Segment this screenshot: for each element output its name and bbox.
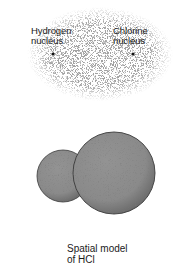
hydrogen-nucleus-dot [51,52,54,55]
caption-line2: of HCl [67,254,128,265]
caption-line1: Spatial model [67,243,128,254]
spatial-model-caption: Spatial model of HCl [67,243,128,265]
chlorine-nucleus-dot [131,52,134,55]
hcl-diagram [0,0,189,277]
chlorine-nucleus-label: Chlorine nucleus [113,26,148,46]
spatial-model [37,132,155,214]
electron-cloud [27,7,173,101]
hydrogen-nucleus-label: Hydrogen nucleus [31,26,71,46]
hydrogen-label-line2: nucleus [31,36,71,46]
chlorine-label-line2: nucleus [113,36,148,46]
